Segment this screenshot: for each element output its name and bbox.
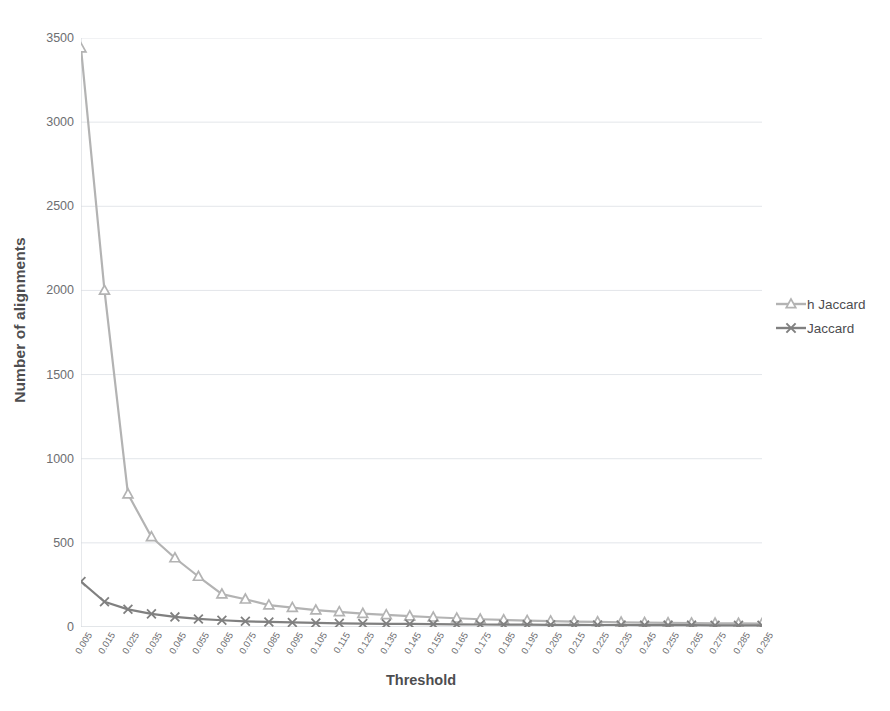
x-tick-label: 0.065: [213, 630, 235, 656]
x-tick-label: 0.195: [519, 630, 541, 656]
x-tick-label: 0.205: [542, 630, 564, 656]
x-tick-label: 0.165: [448, 630, 470, 656]
x-tick-label: 0.225: [589, 630, 611, 656]
data-point-marker: [147, 532, 157, 541]
y-tick-label: 3500: [12, 31, 74, 45]
x-tick-label: 0.035: [143, 630, 165, 656]
x-tick-label: 0.295: [754, 630, 776, 656]
x-tick-label: 0.185: [495, 630, 517, 656]
data-point-marker: [100, 285, 110, 294]
x-tick-label: 0.105: [307, 630, 329, 656]
series-line: [81, 582, 762, 626]
y-tick-label: 500: [12, 536, 74, 550]
legend-label: h Jaccard: [807, 297, 866, 312]
x-tick-label: 0.085: [260, 630, 282, 656]
x-tick-label: 0.175: [472, 630, 494, 656]
x-tick-label: 0.075: [237, 630, 259, 656]
x-tick-label: 0.215: [566, 630, 588, 656]
y-tick-label: 0: [12, 620, 74, 634]
y-tick-label: 1000: [12, 452, 74, 466]
data-point-marker: [81, 577, 85, 586]
y-tick-label: 2000: [12, 283, 74, 297]
x-axis-tick-labels: 0.0050.0150.0250.0350.0450.0550.0650.075…: [81, 630, 762, 674]
legend-label: Jaccard: [807, 321, 854, 336]
x-tick-label: 0.255: [660, 630, 682, 656]
x-tick-label: 0.235: [613, 630, 635, 656]
x-tick-label: 0.005: [73, 630, 95, 656]
x-tick-label: 0.265: [683, 630, 705, 656]
x-axis-title-label: Threshold: [386, 672, 456, 688]
chart-legend: h JaccardJaccard: [776, 292, 888, 340]
data-point-marker: [81, 43, 86, 52]
x-tick-label: 0.135: [378, 630, 400, 656]
x-tick-label: 0.055: [190, 630, 212, 656]
series-h-jaccard: [81, 43, 762, 627]
x-tick-label: 0.115: [331, 630, 352, 655]
plot-svg: [81, 38, 762, 627]
legend-triangle-marker-icon: [776, 296, 806, 312]
legend-entry-h-jaccard[interactable]: h Jaccard: [776, 292, 888, 316]
chart-figure: Number of alignments 0500100015002000250…: [0, 0, 890, 711]
legend-x-marker-icon: [776, 320, 806, 336]
x-tick-label: 0.275: [707, 630, 729, 656]
y-axis-tick-labels: 0500100015002000250030003500: [8, 38, 74, 627]
x-tick-label: 0.095: [284, 630, 306, 656]
x-axis-title: Threshold: [80, 672, 762, 688]
y-tick-label: 1500: [12, 368, 74, 382]
data-point-marker: [123, 489, 133, 498]
legend-entry-jaccard[interactable]: Jaccard: [776, 316, 888, 340]
series-line: [81, 48, 762, 624]
y-tick-label: 2500: [12, 199, 74, 213]
x-tick-label: 0.285: [730, 630, 752, 656]
x-tick-label: 0.155: [425, 630, 447, 656]
x-tick-label: 0.145: [401, 630, 423, 656]
x-tick-label: 0.125: [354, 630, 376, 656]
y-tick-label: 3000: [12, 115, 74, 129]
x-tick-label: 0.245: [636, 630, 658, 656]
x-tick-label: 0.045: [166, 630, 188, 656]
x-tick-label: 0.025: [120, 630, 142, 656]
series-jaccard: [81, 577, 762, 627]
plot-area: [81, 38, 762, 627]
x-tick-label: 0.015: [96, 630, 118, 656]
